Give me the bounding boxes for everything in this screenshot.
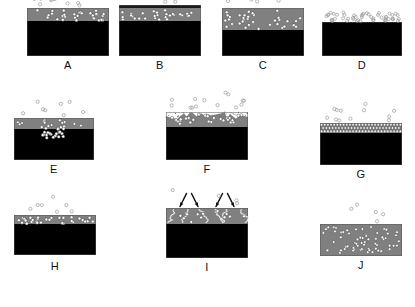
panel-c-drawing [222, 0, 304, 56]
panel-label-b: B [119, 59, 201, 71]
panel-a: A [27, 0, 109, 72]
panel-label-c: C [222, 59, 304, 71]
panel-g: G [320, 97, 402, 181]
panel-j: J [320, 198, 402, 272]
panel-label-h: H [14, 260, 96, 272]
panel-b-drawing [119, 0, 201, 56]
panel-d-drawing [322, 0, 402, 56]
incoming-species-arrow [180, 194, 187, 207]
panel-label-f: F [166, 163, 248, 175]
panel-a-drawing [27, 0, 109, 56]
panel-label-j: J [320, 259, 402, 271]
figure-panel-grid: ABCDEFGHIJ [0, 0, 415, 307]
panel-d: D [322, 0, 402, 72]
panel-label-i: I [166, 261, 248, 273]
panel-label-d: D [322, 59, 402, 71]
panel-b: B [119, 0, 201, 72]
panel-label-a: A [27, 59, 109, 71]
panel-label-e: E [14, 163, 94, 175]
panel-c: C [222, 0, 304, 72]
panel-label-g: G [320, 168, 402, 180]
panel-i: I [166, 182, 248, 274]
incoming-species-arrow [228, 194, 235, 207]
panel-h-drawing [14, 189, 96, 257]
panel-f: F [166, 86, 248, 176]
panel-f-drawing [166, 86, 248, 160]
panel-i-drawing [166, 182, 248, 258]
panel-g-drawing [320, 97, 402, 165]
panel-j-drawing [320, 198, 402, 256]
incoming-species-arrow [192, 194, 199, 207]
panel-h: H [14, 189, 96, 273]
panel-e: E [14, 92, 94, 176]
panel-e-drawing [14, 92, 94, 160]
